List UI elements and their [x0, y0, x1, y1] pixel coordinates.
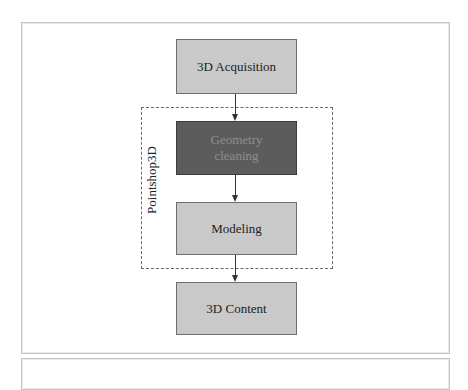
- arrowhead-icon: [232, 195, 238, 202]
- node-label: Modeling: [211, 221, 262, 237]
- node-3d-content: 3D Content: [176, 282, 297, 335]
- pointshop3d-group-label: Pointshop3D: [144, 142, 160, 218]
- node-modeling: Modeling: [176, 202, 297, 255]
- node-geometry-cleaning: Geometry cleaning: [176, 121, 297, 175]
- arrowhead-icon: [232, 275, 238, 282]
- edge-modeling-to-content: [235, 255, 236, 275]
- edge-acquisition-to-cleaning: [235, 94, 236, 114]
- node-label-line-1: Geometry: [211, 132, 263, 148]
- node-label: 3D Content: [206, 301, 266, 317]
- arrowhead-icon: [232, 114, 238, 121]
- edge-cleaning-to-modeling: [235, 175, 236, 195]
- node-3d-acquisition: 3D Acquisition: [176, 39, 297, 94]
- node-label: 3D Acquisition: [197, 59, 276, 75]
- node-label-line-2: cleaning: [214, 148, 258, 164]
- next-figure-frame: [21, 358, 450, 390]
